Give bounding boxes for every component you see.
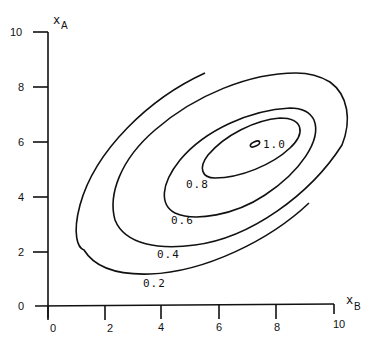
contour-label-0.8: 0.8 (186, 178, 209, 191)
x-tick-8: 8 (274, 321, 280, 333)
contour-lines (76, 73, 347, 274)
contour-label-0.2: 0.2 (143, 277, 166, 290)
contour-0.6 (164, 108, 315, 217)
y-tick-8: 8 (18, 81, 24, 93)
y-tick-6: 6 (18, 136, 24, 148)
x-axis-label: x (346, 293, 353, 307)
contour-label-0.4: 0.4 (157, 248, 180, 261)
contour-labels: 1.0 0.8 0.6 0.4 0.2 (143, 138, 286, 290)
y-axis-label: x (53, 13, 60, 27)
y-tick-0: 0 (18, 300, 24, 312)
x-axis: 0 2 4 6 8 10 x B (35, 293, 361, 334)
contour-chart: 10 8 6 4 2 0 x A 0 2 4 6 8 10 x B (0, 0, 374, 345)
y-tick-2: 2 (18, 246, 24, 258)
contour-0.4 (113, 73, 347, 247)
y-tick-10: 10 (10, 26, 22, 38)
contour-1.0 (250, 140, 261, 148)
y-axis: 10 8 6 4 2 0 x A (10, 13, 68, 318)
x-tick-6: 6 (216, 321, 222, 333)
y-axis-label-sub: A (61, 20, 68, 31)
x-tick-0: 0 (50, 322, 56, 334)
contour-label-0.6: 0.6 (171, 214, 194, 227)
contour-label-1.0: 1.0 (263, 138, 286, 151)
x-tick-10: 10 (333, 318, 345, 330)
x-tick-4: 4 (158, 321, 164, 333)
y-tick-4: 4 (18, 191, 24, 203)
x-axis-label-sub: B (354, 301, 361, 312)
x-tick-2: 2 (107, 322, 113, 334)
